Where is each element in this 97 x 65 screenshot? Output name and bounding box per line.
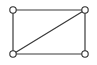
vertex-top-left	[10, 7, 16, 13]
vertex-top-right	[82, 7, 88, 13]
graph-diagram	[0, 0, 97, 65]
vertex-bottom-right	[82, 51, 88, 57]
figure-canvas	[0, 0, 97, 65]
vertex-bottom-left	[10, 51, 16, 57]
